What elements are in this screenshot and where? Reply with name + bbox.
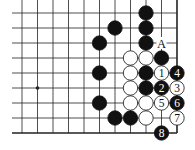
star-point (36, 86, 40, 90)
black-stone: 6 (170, 96, 184, 110)
black-stone (123, 111, 137, 125)
move-number-label: 6 (174, 97, 180, 109)
move-number-label: 4 (174, 67, 180, 79)
white-stone (139, 111, 153, 125)
white-stone (123, 66, 137, 80)
white-stone (123, 81, 137, 95)
black-stone (154, 51, 168, 65)
black-stone (139, 6, 153, 20)
white-stone: 7 (170, 111, 184, 125)
star-points (36, 86, 40, 90)
white-stone: 1 (154, 66, 168, 80)
black-stone (139, 66, 153, 80)
black-stone: 8 (154, 126, 168, 140)
black-stone: 4 (170, 66, 184, 80)
black-stone: 2 (154, 81, 168, 95)
white-stone: 3 (170, 81, 184, 95)
black-stone (92, 66, 106, 80)
markers: A (157, 37, 167, 51)
black-stone (139, 36, 153, 50)
black-stone (108, 111, 122, 125)
black-stone (92, 36, 106, 50)
move-number-label: 5 (159, 97, 165, 109)
black-stone (139, 81, 153, 95)
grid-lines (12, 0, 177, 133)
go-board: 14235678 A (0, 0, 195, 150)
white-stone (123, 51, 137, 65)
move-number-label: 3 (174, 82, 180, 94)
black-stone (92, 96, 106, 110)
white-stone (139, 51, 153, 65)
white-stone (139, 96, 153, 110)
point-marker-label: A (157, 37, 166, 51)
move-number-label: 2 (159, 82, 165, 94)
white-stone: 5 (154, 96, 168, 110)
move-number-label: 1 (159, 67, 165, 79)
black-stone (139, 21, 153, 35)
black-stone (108, 21, 122, 35)
white-stone (123, 96, 137, 110)
move-number-label: 7 (174, 112, 180, 124)
move-number-label: 8 (159, 127, 165, 139)
